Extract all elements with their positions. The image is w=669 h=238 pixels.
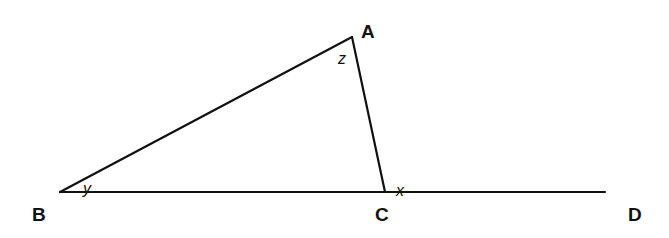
triangle-diagram: A B C D z y x [0, 0, 669, 238]
vertex-label-c: C [375, 204, 389, 225]
angle-label-x: x [395, 182, 405, 199]
segment-ba [60, 37, 352, 192]
diagram-canvas: A B C D z y x [0, 0, 669, 238]
vertex-label-b: B [32, 204, 46, 225]
angle-label-y: y [82, 180, 92, 197]
angle-label-z: z [337, 50, 346, 67]
vertex-label-d: D [628, 204, 642, 225]
segment-ac [352, 37, 385, 192]
vertex-label-a: A [361, 21, 375, 42]
